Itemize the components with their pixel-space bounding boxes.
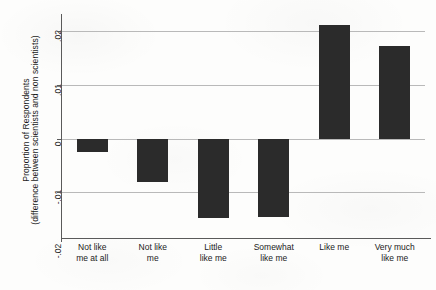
x-tick-label-line: like me bbox=[365, 253, 426, 264]
x-tick-label: Somewhatlike me bbox=[244, 242, 305, 263]
bar bbox=[198, 139, 229, 218]
y-axis-tick bbox=[57, 31, 62, 32]
x-tick-label: Like me bbox=[304, 242, 365, 253]
y-axis-title: Proportion of Respondents (difference be… bbox=[16, 0, 50, 260]
gridline bbox=[62, 85, 425, 86]
gridline bbox=[62, 139, 425, 140]
x-tick-label-line: me bbox=[123, 253, 184, 264]
bar bbox=[379, 46, 410, 138]
x-tick-label-line: Not like bbox=[62, 242, 123, 253]
x-tick-label-line: like me bbox=[183, 253, 244, 264]
bar bbox=[137, 139, 168, 182]
bar bbox=[77, 139, 108, 152]
gridline bbox=[62, 192, 425, 193]
x-tick-label-line: Not like bbox=[123, 242, 184, 253]
y-tick-label-holder: .02 bbox=[38, 31, 58, 32]
bar bbox=[258, 139, 289, 217]
y-axis-line bbox=[61, 14, 62, 242]
plot-area bbox=[62, 18, 425, 238]
y-tick-label-holder: -.01 bbox=[38, 192, 58, 193]
y-axis-title-line-2: (difference between scientists and non s… bbox=[30, 35, 40, 224]
y-tick-label-holder: -.02 bbox=[38, 246, 58, 247]
x-tick-label-line: Somewhat bbox=[244, 242, 305, 253]
y-axis-tick bbox=[57, 139, 62, 140]
y-tick-label-holder: 0 bbox=[38, 139, 58, 140]
x-axis-tick-labels: Not likeme at allNot likemeLittlelike me… bbox=[62, 242, 425, 286]
x-tick-label: Not likeme at all bbox=[62, 242, 123, 263]
x-tick-label-line: like me bbox=[244, 253, 305, 264]
bar-chart: Proportion of Respondents (difference be… bbox=[0, 0, 436, 290]
gridline bbox=[62, 31, 425, 32]
x-tick-label: Very muchlike me bbox=[365, 242, 426, 263]
bar bbox=[319, 25, 350, 139]
x-tick-label-line: Little bbox=[183, 242, 244, 253]
x-tick-label: Littlelike me bbox=[183, 242, 244, 263]
x-tick-label-line: Very much bbox=[365, 242, 426, 253]
x-tick-label-line: me at all bbox=[62, 253, 123, 264]
y-axis-tick bbox=[57, 85, 62, 86]
x-tick-label: Not likeme bbox=[123, 242, 184, 263]
y-axis-tick bbox=[57, 192, 62, 193]
x-axis-line bbox=[61, 238, 431, 239]
x-tick-label-line: Like me bbox=[304, 242, 365, 253]
y-tick-label-holder: .01 bbox=[38, 85, 58, 86]
